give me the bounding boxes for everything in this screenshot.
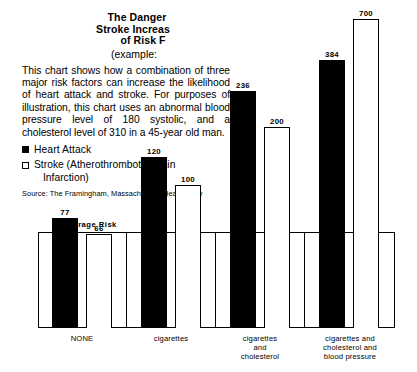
bar-value-label: 200 [270,117,284,126]
bar-value-label: 700 [359,9,373,18]
bar-value-label: 77 [60,208,69,217]
open-square-icon [22,162,29,169]
bar-value-label: 66 [94,224,103,233]
x-label-line: blood pressure [305,352,395,361]
bar-heart-attack-none: 77 [52,218,78,328]
bar-stroke-all-factors: 700 [353,19,379,328]
group-divider-1 [126,232,127,328]
bar-stroke-none: 66 [86,234,112,328]
x-label-line: cigarettes and [305,334,395,343]
x-label-line: cigarettes [127,334,215,343]
bar-stroke-cigarettes-cholesterol: 200 [264,127,290,328]
bar-heart-attack-cigarettes-cholesterol: 236 [230,91,256,328]
filled-square-icon [22,146,29,153]
bar-value-label: 236 [236,81,250,90]
bar-value-label: 100 [181,175,195,184]
bar-stroke-cigarettes: 100 [175,185,201,328]
x-label-line: cigarettes [216,334,304,343]
x-label-cigarettes: cigarettes [127,334,215,343]
bar-chart: Average Risk 77 66 120 100 236 [38,232,395,328]
x-label-none: NONE [38,334,126,343]
x-label-all-factors: cigarettes and cholesterol and blood pre… [305,334,395,362]
group-divider-3 [304,232,305,328]
x-label-cigarettes-cholesterol: cigarettes and cholesterol [216,334,304,362]
x-label-line: and [216,343,304,352]
chart-plot-area: Average Risk 77 66 120 100 236 [38,16,395,328]
chart-x-axis-labels: NONE cigarettes cigarettes and cholester… [38,334,395,368]
chart-page: The Danger Stroke Increas of Risk F (exa… [0,0,417,372]
bar-value-label: 384 [325,50,339,59]
bar-heart-attack-all-factors: 384 [319,60,345,328]
bar-heart-attack-cigarettes: 120 [141,157,167,328]
group-divider-2 [215,232,216,328]
x-label-line: cholesterol and [305,343,395,352]
x-label-line: cholesterol [216,352,304,361]
bar-value-label: 120 [147,147,161,156]
x-label-line: NONE [38,334,126,343]
